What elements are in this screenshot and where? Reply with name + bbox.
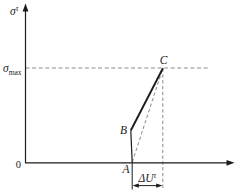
traction-separation-figure: στ σmax 0 C B A ΔUτ [0, 0, 240, 194]
point-a-label: A [121, 163, 130, 175]
origin-label: 0 [16, 159, 21, 170]
point-c-label: C [160, 54, 168, 66]
point-b-label: B [120, 124, 127, 136]
figure-background [0, 0, 240, 194]
figure-canvas: στ σmax 0 C B A ΔUτ [0, 0, 240, 194]
